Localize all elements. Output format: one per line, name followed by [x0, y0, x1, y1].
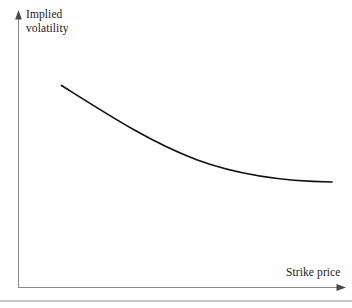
y-axis-label-line-2: volatility	[26, 22, 69, 34]
y-axis-arrowhead	[15, 10, 22, 20]
volatility-skew-figure: Impliedvolatility Strike price	[0, 0, 352, 308]
y-axis-label: Impliedvolatility	[26, 8, 69, 35]
y-axis-label-line-1: Implied	[26, 8, 62, 20]
x-axis-arrowhead	[337, 284, 347, 291]
chart-plot-area	[0, 0, 352, 308]
x-axis-label: Strike price	[286, 266, 341, 280]
implied-volatility-curve	[62, 86, 333, 183]
bottom-divider-rule	[0, 300, 352, 302]
